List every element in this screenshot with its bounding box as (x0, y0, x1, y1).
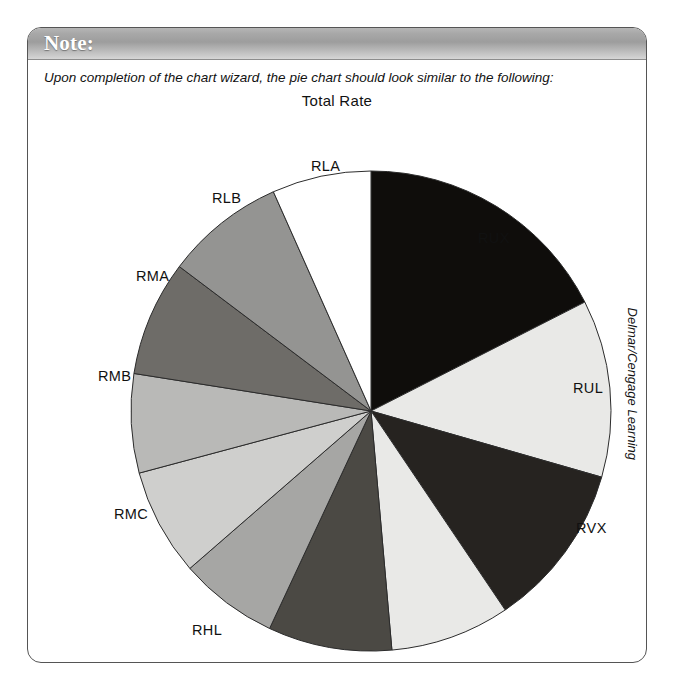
note-caption-text: Upon completion of the chart wizard, the… (44, 70, 554, 85)
pie-label-rmb: RMB (98, 368, 131, 384)
note-panel: Note: Upon completion of the chart wizar… (27, 27, 647, 663)
pie-label-rla: RLA (311, 158, 340, 174)
pie-label-rlb: RLB (212, 190, 241, 206)
publisher-credit: Delmar/Cengage Learning (625, 308, 640, 460)
pie-label-rhl: RHL (192, 622, 222, 638)
pie-label-rvx: RVX (576, 520, 607, 536)
pie-label-rmc: RMC (114, 506, 148, 522)
pie-label-rux: RUX (478, 230, 510, 246)
pie-label-rma: RMA (136, 268, 169, 284)
pie-label-rvl: RVL (490, 660, 519, 663)
note-header-bar: Note: (28, 28, 646, 60)
pie-chart-figure: Total Rate RUXRULRVXRVLRHXRHLRMCRMBRMARL… (28, 92, 646, 663)
pie-label-rul: RUL (573, 380, 603, 396)
note-header-title: Note: (44, 31, 94, 56)
pie-slice-group (131, 171, 611, 651)
